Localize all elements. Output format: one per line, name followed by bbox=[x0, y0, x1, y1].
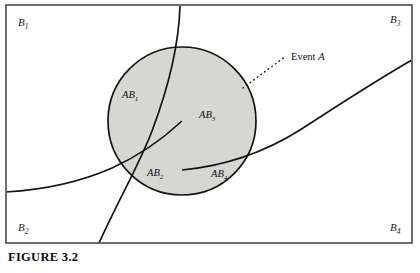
label-ab4-base: AB bbox=[210, 168, 224, 179]
label-ab2-base: AB bbox=[146, 167, 160, 178]
label-ab1-base: AB bbox=[121, 89, 135, 100]
label-ab4-sub: 4 bbox=[224, 174, 228, 182]
event-a-label-word: Event bbox=[291, 51, 318, 62]
event-a-label-letter: A bbox=[317, 51, 325, 62]
label-ab3-sub: 3 bbox=[211, 115, 216, 123]
label-b1-sub: 1 bbox=[25, 22, 29, 31]
label-ab3-base: AB bbox=[198, 109, 212, 120]
label-b3-sub: 3 bbox=[396, 19, 401, 28]
event-a-label: Event A bbox=[291, 51, 325, 62]
figure-page: Event A B1 B3 B2 B4 AB1 AB3 AB2 AB4 FIGU… bbox=[0, 0, 420, 273]
venn-partition-diagram: Event A B1 B3 B2 B4 AB1 AB3 AB2 AB4 bbox=[0, 0, 420, 273]
label-b2-sub: 2 bbox=[25, 227, 29, 236]
label-b4-sub: 4 bbox=[397, 227, 401, 236]
label-ab2-sub: 2 bbox=[160, 173, 164, 181]
figure-caption: FIGURE 3.2 bbox=[8, 250, 78, 265]
label-ab1-sub: 1 bbox=[135, 95, 139, 103]
